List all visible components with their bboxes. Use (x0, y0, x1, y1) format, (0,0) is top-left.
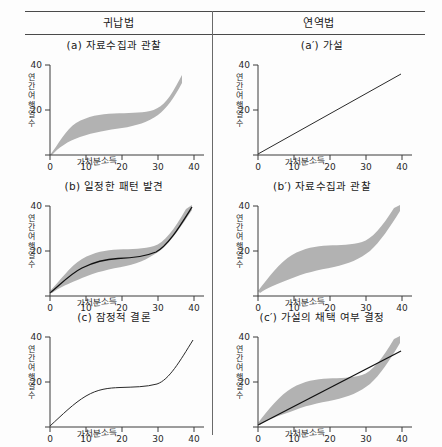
panel-c-prime-band (258, 336, 400, 425)
table-header-rule (25, 34, 425, 35)
panel-a-band (50, 75, 182, 155)
panel-c-title: (c) 잠정적 결론 (14, 310, 214, 324)
svg-text:30: 30 (152, 434, 164, 444)
panel-a-prime-xlabel: 가처분소득 (284, 153, 325, 169)
panel-a-prime-plot: 연간여행일수 가처분소득 40 20 0 10 (222, 53, 422, 173)
svg-text:20: 20 (324, 434, 336, 444)
svg-text:40: 40 (396, 162, 408, 172)
panel-b-band (50, 205, 192, 293)
svg-text:0: 0 (47, 434, 53, 444)
panel-a-prime: (a′) 가설 연간여행일수 가처분소득 40 20 0 (222, 36, 422, 176)
table-top-rule (25, 11, 425, 12)
svg-text:40: 40 (31, 60, 43, 70)
svg-text:40: 40 (188, 162, 200, 172)
panel-b-prime: (b′) 자료수집과 관찰 연간여행일수 가처분소득 40 20 (222, 177, 422, 317)
panel-a-plot: 연간여행일수 가처분소득 40 20 0 10 (14, 53, 214, 173)
svg-text:40: 40 (239, 60, 251, 70)
panel-b-prime-ylabel: 연간여행일수 (234, 214, 245, 269)
panel-c-prime: (c′) 가설의 채택 여부 결정 연간여행일수 가처분소득 40 (222, 308, 422, 447)
panel-b-prime-band (258, 205, 400, 293)
panel-a-prime-hypothesis-line (258, 74, 401, 154)
panel-a: (a) 자료수집과 관찰 연간여행일수 가처분소득 40 20 (14, 36, 214, 176)
panel-c-prime-plot: 연간여행일수 가처분소득 40 20 0 (222, 325, 422, 445)
panel-c-xlabel: 가처분소득 (76, 425, 117, 441)
svg-text:40: 40 (188, 434, 200, 444)
panel-c-prime-hypothesis-line (258, 351, 401, 425)
svg-text:40: 40 (31, 201, 43, 211)
panel-a-title: (a) 자료수집과 관찰 (14, 38, 214, 52)
panel-b-ylabel: 연간여행일수 (26, 214, 37, 269)
svg-text:40: 40 (31, 332, 43, 342)
svg-text:0: 0 (255, 434, 261, 444)
panel-b-prime-plot: 연간여행일수 가처분소득 40 20 0 10 (222, 194, 422, 314)
svg-text:40: 40 (239, 201, 251, 211)
svg-text:0: 0 (255, 162, 261, 172)
panel-c-plot: 연간여행일수 가처분소득 40 20 0 10 (14, 325, 214, 445)
panel-c-prime-xlabel: 가처분소득 (284, 425, 325, 441)
column-header-deduction: 연역법 (213, 14, 425, 33)
panel-c: (c) 잠정적 결론 연간여행일수 가처분소득 40 20 (14, 308, 214, 447)
figure-root: 귀납법 연역법 (a) 자료수집과 관찰 연간여행일수 가처분소득 40 (0, 0, 442, 447)
svg-text:30: 30 (152, 162, 164, 172)
panel-a-xlabel: 가처분소득 (76, 153, 117, 169)
svg-text:30: 30 (360, 162, 372, 172)
column-header-induction: 귀납법 (25, 14, 212, 33)
panel-c-prime-title: (c′) 가설의 채택 여부 결정 (222, 310, 422, 324)
panel-c-ylabel: 연간여행일수 (26, 345, 37, 400)
panel-b: (b) 일정한 패턴 발견 연간여행일수 가처분소득 40 (14, 177, 214, 317)
panel-b-prime-title: (b′) 자료수집과 관찰 (222, 179, 422, 193)
panel-c-conclusion-curve (50, 340, 193, 426)
svg-text:20: 20 (324, 162, 336, 172)
svg-text:20: 20 (116, 162, 128, 172)
svg-text:40: 40 (239, 332, 251, 342)
panel-c-prime-ylabel: 연간여행일수 (234, 345, 245, 400)
panel-b-plot: 연간여행일수 가처분소득 40 20 0 (14, 194, 214, 314)
panel-a-ylabel: 연간여행일수 (26, 73, 37, 128)
svg-text:0: 0 (47, 162, 53, 172)
panel-a-prime-title: (a′) 가설 (222, 38, 422, 52)
svg-text:20: 20 (116, 434, 128, 444)
panel-b-title: (b) 일정한 패턴 발견 (14, 179, 214, 193)
panel-a-prime-ylabel: 연간여행일수 (234, 73, 245, 128)
svg-text:30: 30 (360, 434, 372, 444)
svg-text:40: 40 (396, 434, 408, 444)
